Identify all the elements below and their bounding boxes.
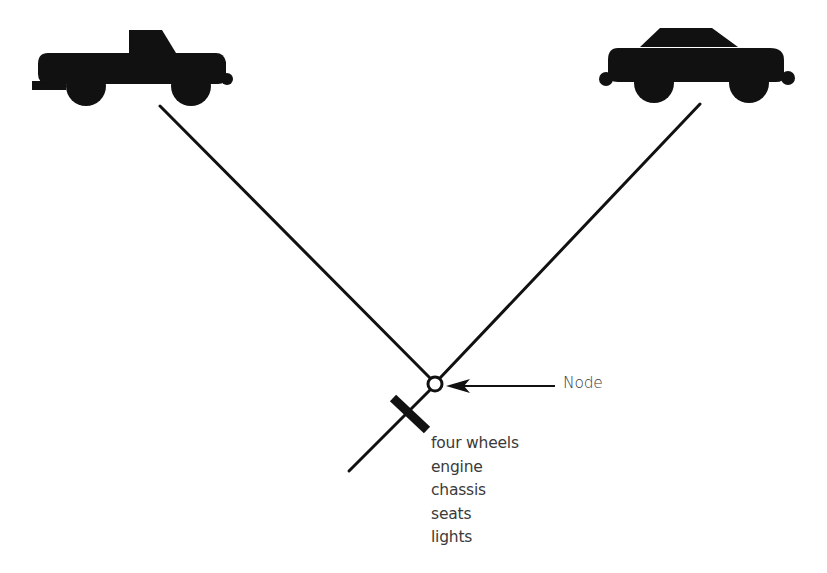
cladogram-diagram — [0, 0, 827, 573]
list-item: engine — [431, 456, 519, 480]
arrow-icon — [446, 379, 555, 393]
shared-characters-list: four wheels engine chassis seats lights — [431, 432, 519, 550]
pickup-truck-icon — [32, 30, 233, 106]
stem-line — [349, 390, 430, 471]
list-item: lights — [431, 526, 519, 550]
node-label: Node — [563, 374, 603, 392]
branch-line-car — [440, 104, 700, 378]
node-circle — [428, 377, 442, 391]
branch-line-truck — [160, 106, 431, 379]
shared-character-bar — [393, 398, 427, 430]
sedan-car-icon — [599, 28, 795, 103]
list-item: chassis — [431, 479, 519, 503]
list-item: seats — [431, 503, 519, 527]
list-item: four wheels — [431, 432, 519, 456]
